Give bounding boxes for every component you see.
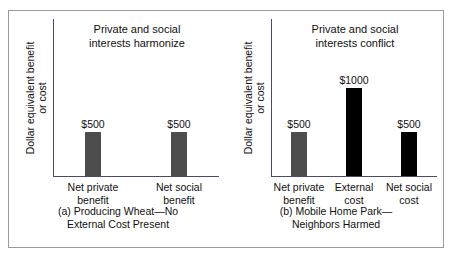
panel-caption-b: (b) Mobile Home Park— Neighbors Harmed: [237, 205, 435, 231]
bar-value-label: $500: [379, 118, 439, 130]
bar-item: $500: [379, 118, 439, 176]
x-tick-label: Net social cost: [374, 181, 444, 206]
panel-caption-b-line2: Neighbors Harmed: [237, 218, 435, 231]
bar-rect: [85, 132, 101, 176]
panel-caption-a-line1: (a) Producing Wheat—No: [19, 205, 217, 218]
bar-value-label: $500: [269, 118, 329, 130]
x-tick-line1: Net private: [58, 181, 128, 194]
bar-item: $500: [269, 118, 329, 176]
chart-panel-a: Dollar equivalent benefit or cost Privat…: [9, 11, 227, 249]
y-axis-label-line2: or cost: [254, 82, 267, 114]
x-tick-line1: Net social: [374, 181, 444, 194]
bar-value-label: $500: [63, 118, 123, 130]
y-axis-label-line1: Dollar equivalent benefit: [242, 42, 255, 155]
bar-rect: [171, 132, 187, 176]
bar-item: $500: [63, 118, 123, 176]
panel-caption-a-line2: External Cost Present: [19, 218, 217, 231]
panel-caption-a: (a) Producing Wheat—No External Cost Pre…: [19, 205, 217, 231]
bar-rect: [401, 132, 417, 176]
x-tick-label: Net social benefit: [144, 181, 214, 206]
figure-frame: Dollar equivalent benefit or cost Privat…: [8, 10, 444, 248]
bar-rect: [291, 132, 307, 176]
bar-item: $500: [149, 118, 209, 176]
x-tick-label: Net private benefit: [58, 181, 128, 206]
y-axis-label-line2: or cost: [36, 82, 49, 114]
y-axis-label-a: Dollar equivalent benefit or cost: [23, 19, 49, 177]
y-axis-label-line1: Dollar equivalent benefit: [24, 42, 37, 155]
x-tick-line1: Net social: [144, 181, 214, 194]
chart-panel-b: Dollar equivalent benefit or cost Privat…: [227, 11, 445, 249]
bar-group-b: $500 $1000 $500: [271, 19, 437, 177]
y-axis-label-b: Dollar equivalent benefit or cost: [241, 19, 267, 177]
panel-caption-b-line1: (b) Mobile Home Park—: [237, 205, 435, 218]
bar-group-a: $500 $500: [53, 19, 219, 177]
bar-rect: [346, 88, 362, 176]
bar-item: $1000: [324, 74, 384, 176]
bar-value-label: $1000: [324, 74, 384, 86]
bar-value-label: $500: [149, 118, 209, 130]
